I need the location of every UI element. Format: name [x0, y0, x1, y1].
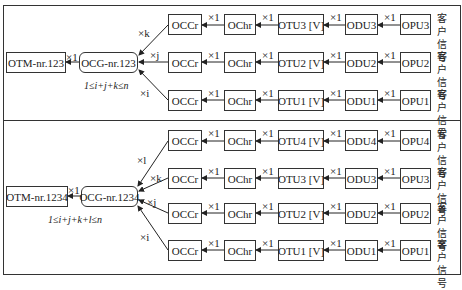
mult-label: ×1: [262, 88, 274, 99]
odu-box: ODU1: [345, 240, 378, 261]
branch-mult: ×i: [140, 88, 149, 99]
mult-label: ×1: [208, 50, 220, 61]
mult-label: ×1: [208, 166, 220, 177]
occ-box: OCCr: [168, 240, 202, 261]
occ-box: OCCr: [168, 168, 202, 189]
mult-label: ×1: [330, 201, 342, 212]
mult-label: ×1: [208, 88, 220, 99]
opu-box: OPU1: [400, 240, 431, 261]
otu-box: OTU1 [V]: [278, 240, 324, 261]
otu-box: OTU3 [V]: [278, 168, 324, 189]
mult-label: ×1: [262, 166, 274, 177]
branch-mult: ×l: [137, 155, 146, 166]
mult-label: ×1: [208, 12, 220, 23]
occ-box: OCCr: [168, 14, 202, 35]
opu-box: OPU1: [400, 90, 431, 111]
odu-box: ODU4: [345, 130, 378, 151]
och-box: OChr: [224, 52, 256, 73]
mult-label: ×1: [262, 238, 274, 249]
opu-box: OPU2: [400, 52, 431, 73]
och-box: OChr: [224, 240, 256, 261]
otm-label: OTM-nr.123: [8, 57, 64, 69]
otu-box: OTU2 [V]: [278, 52, 324, 73]
mult-label: ×1: [330, 88, 342, 99]
mult-label: ×1: [384, 88, 396, 99]
mult-label: ×1: [262, 201, 274, 212]
otu-box: OTU3 [V]: [278, 14, 324, 35]
condition-label: 1≤i+j+k+l≤n: [48, 214, 102, 225]
otu-box: OTU2 [V]: [278, 203, 324, 224]
odu-box: ODU3: [345, 14, 378, 35]
opu-box: OPU3: [400, 14, 431, 35]
mult-label: ×1: [262, 128, 274, 139]
och-box: OChr: [224, 90, 256, 111]
mult-label: ×1: [384, 128, 396, 139]
occ-box: OCCr: [168, 203, 202, 224]
och-box: OChr: [224, 14, 256, 35]
mult-label: ×1: [262, 50, 274, 61]
otm-label: OTM-nr.1234: [6, 191, 67, 203]
odu-box: ODU1: [345, 90, 378, 111]
mult-label: ×1: [262, 12, 274, 23]
occ-box: OCCr: [168, 52, 202, 73]
mult-label: ×1: [384, 201, 396, 212]
odu-box: ODU3: [345, 168, 378, 189]
mult-label: ×1: [384, 166, 396, 177]
och-box: OChr: [224, 203, 256, 224]
mult-label: ×1: [384, 238, 396, 249]
branch-mult: ×k: [150, 173, 162, 184]
client-signal-label: 客户信号: [437, 238, 451, 290]
ocg-box: OCG-nr.123: [79, 52, 138, 73]
opu-box: OPU4: [400, 130, 431, 151]
mult-label: ×1: [330, 50, 342, 61]
mult-label: ×1: [208, 238, 220, 249]
branch-mult: ×k: [138, 28, 150, 39]
ocg-label: OCG-nr.123: [81, 57, 136, 69]
mult-label: ×1: [330, 12, 342, 23]
otm-box: OTM-nr.123: [6, 52, 66, 73]
och-box: OChr: [224, 168, 256, 189]
mult-label: ×1: [330, 166, 342, 177]
otm-box: OTM-nr.1234: [6, 186, 68, 207]
otu-box: OTU4 [V]: [278, 130, 324, 151]
opu-box: OPU3: [400, 168, 431, 189]
mult-label: ×1: [384, 50, 396, 61]
branch-mult: ×i: [140, 232, 149, 243]
mult-label: ×1: [208, 128, 220, 139]
ocg-label: OCG-nr.1234: [79, 191, 139, 203]
occ-box: OCCr: [168, 90, 202, 111]
mult-label: ×1: [208, 201, 220, 212]
mult-label: ×1: [330, 128, 342, 139]
otu-box: OTU1 [V]: [278, 90, 324, 111]
branch-mult: ×j: [147, 197, 156, 208]
och-box: OChr: [224, 130, 256, 151]
branch-mult: ×j: [150, 50, 159, 61]
mult-label: ×1: [68, 185, 80, 196]
occ-box: OCCr: [168, 130, 202, 151]
mult-label: ×1: [384, 12, 396, 23]
mult-label: ×1: [330, 238, 342, 249]
ocg-box: OCG-nr.1234: [81, 186, 138, 207]
mult-label: ×1: [66, 52, 78, 63]
odu-box: ODU2: [345, 203, 378, 224]
odu-box: ODU2: [345, 52, 378, 73]
opu-box: OPU2: [400, 203, 431, 224]
condition-label: 1≤i+j+k≤n: [84, 80, 128, 91]
